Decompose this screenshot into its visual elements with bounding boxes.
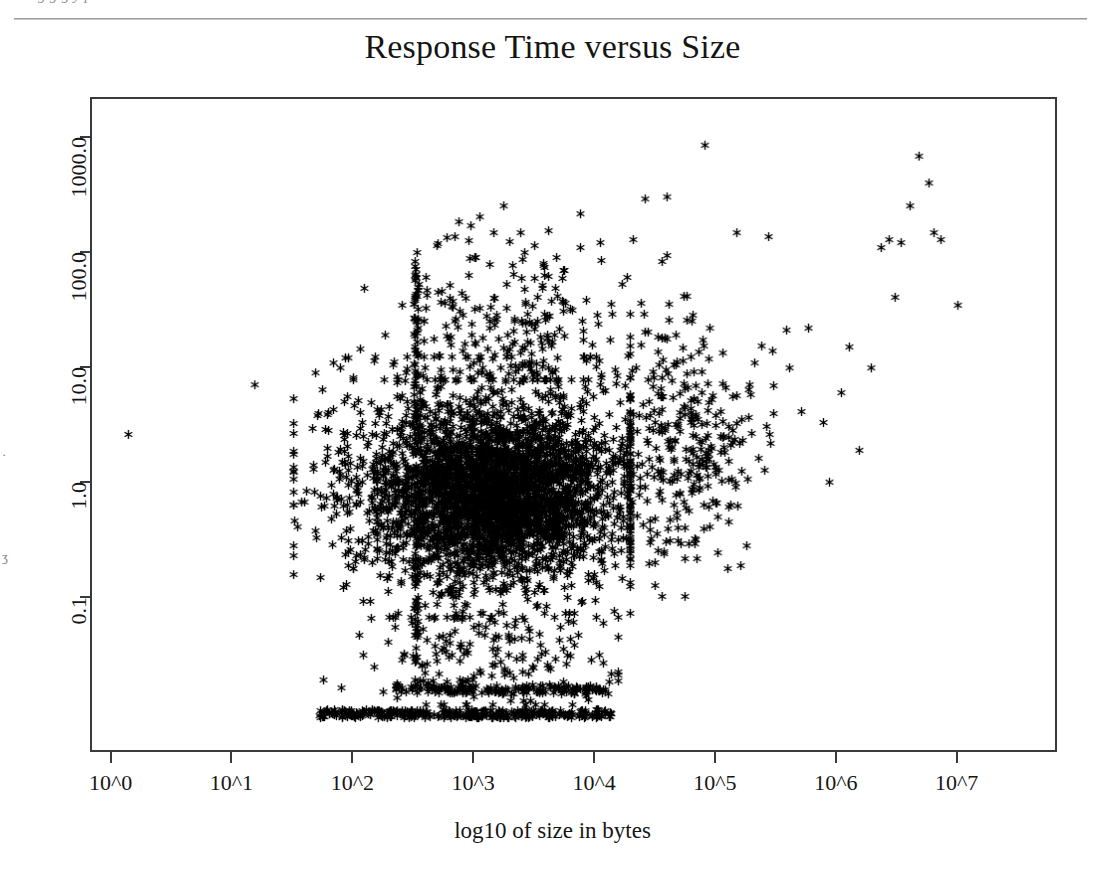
chart-title: Response Time versus Size	[0, 28, 1105, 66]
y-axis-tick-label: 1000.0	[0, 124, 78, 150]
page-header-artifact: g g g y p	[0, 0, 1105, 5]
x-axis-tick	[593, 752, 595, 763]
margin-glyph-fragment: ʒ	[2, 549, 14, 565]
x-axis-tick-label: 10^4	[534, 770, 654, 796]
x-axis-tick-label: 10^6	[776, 770, 896, 796]
x-axis-tick-label: 10^5	[655, 770, 775, 796]
page-horizontal-rule	[14, 18, 1087, 20]
x-axis-tick	[956, 752, 958, 763]
x-axis-tick-label: 10^0	[51, 770, 171, 796]
y-axis-tick-label: 0.1	[0, 584, 78, 610]
x-axis-tick-label: 10^7	[897, 770, 1017, 796]
plot-frame	[90, 97, 1057, 752]
margin-glyph-fragment: ·	[2, 447, 14, 463]
x-axis-tick	[351, 752, 353, 763]
scatter-plot-canvas	[92, 99, 1055, 750]
y-axis-tick-label: 10.0	[0, 354, 78, 380]
x-axis-tick-label: 10^3	[413, 770, 533, 796]
x-axis-tick-label: 10^2	[292, 770, 412, 796]
x-axis-title: log10 of size in bytes	[0, 818, 1105, 844]
x-axis-tick	[472, 752, 474, 763]
y-axis-tick-label: 1.0	[0, 469, 78, 495]
x-axis-tick	[714, 752, 716, 763]
y-axis-tick-label: 100.0	[0, 239, 78, 265]
x-axis-tick	[110, 752, 112, 763]
x-axis-tick	[835, 752, 837, 763]
x-axis-tick	[230, 752, 232, 763]
x-axis-tick-label: 10^1	[171, 770, 291, 796]
